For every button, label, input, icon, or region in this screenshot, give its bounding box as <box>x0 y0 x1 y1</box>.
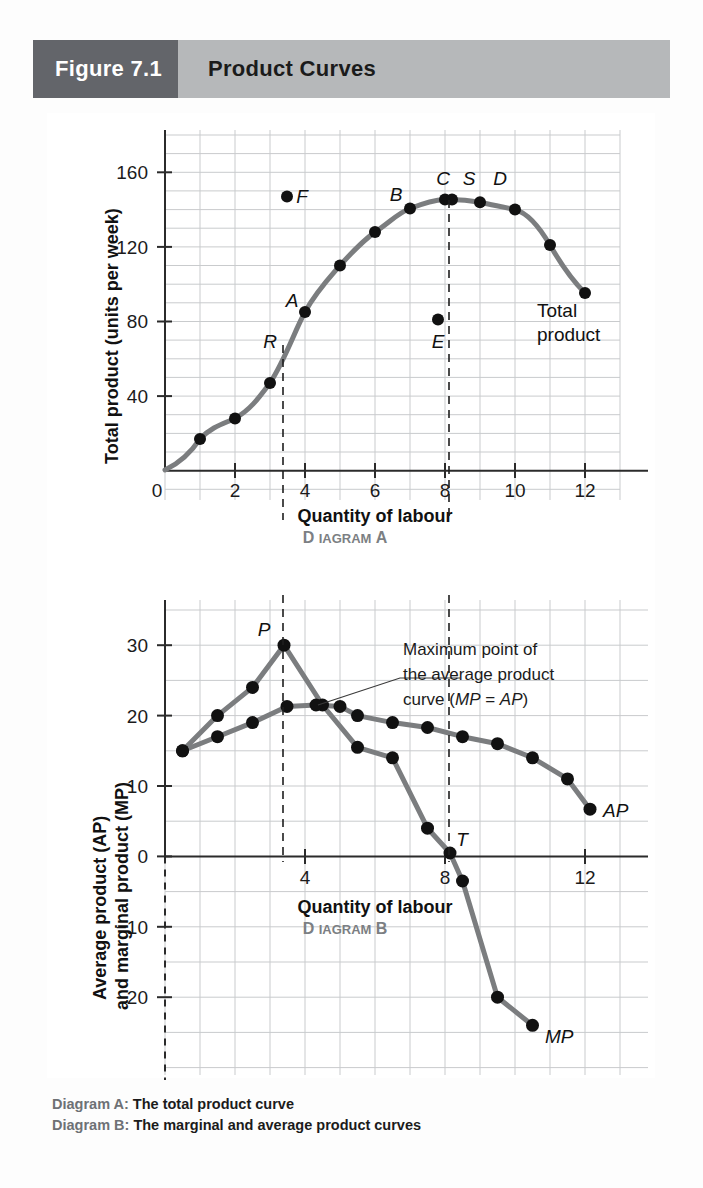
figure-caption: Diagram A: The total product curve Diagr… <box>52 1094 652 1136</box>
figure-container: Figure 7.1 Product Curves <box>0 0 703 1188</box>
annotation-line-3: curve (MP = AP) <box>403 690 528 709</box>
diagram-a-label-C: C <box>436 168 450 189</box>
diagram-a-y-axis-title: Total product (units per week) <box>102 208 122 464</box>
diagram-a-y-tick-80: 80 <box>127 311 148 332</box>
caption-line-a-key: Diagram A: <box>52 1096 129 1112</box>
diagram-b-label-P: P <box>258 619 271 640</box>
annotation-line-1: Maximum point of <box>403 640 537 659</box>
diagram-b-x-axis-title: Quantity of labour <box>298 897 453 917</box>
diagram-a-x-tick-2: 2 <box>230 480 241 501</box>
caption-line-b: Diagram B: The marginal and average prod… <box>52 1115 652 1136</box>
diagram-a-label-B: B <box>390 184 403 205</box>
mp-curve-label: MP <box>545 1026 574 1047</box>
diagram-b-x-tick-4: 4 <box>300 867 311 888</box>
diagram-a-label-F: F <box>296 186 309 207</box>
annotation-line-2: the average product <box>403 665 554 684</box>
diagram-b-y-tick-30: 30 <box>127 635 148 656</box>
diagram-a-x-tick-12: 12 <box>574 480 595 501</box>
diagram-a-y-tick-160: 160 <box>116 162 148 183</box>
total-product-curve-label-line1: Total <box>537 300 577 321</box>
diagram-a-label-R: R <box>263 331 277 352</box>
point-f-marker <box>281 190 293 202</box>
caption-line-a-text: The total product curve <box>129 1096 294 1112</box>
diagram-b: 30 20 10 0 −10 −20 4 8 12 <box>90 600 648 1080</box>
diagram-b-y-axis-title-line1: Average product (AP) <box>90 816 110 1000</box>
diagram-a-label-S: S <box>463 168 476 189</box>
caption-line-b-text: The marginal and average product curves <box>129 1117 421 1133</box>
diagram-b-tag: D IAGRAM B <box>303 920 388 937</box>
diagram-b-x-tick-8: 8 <box>440 867 451 888</box>
point-e-marker <box>432 314 444 326</box>
diagram-a-x-axis-title: Quantity of labour <box>298 506 453 526</box>
diagram-b-y-axis-title-line2: and marginal product (MP) <box>112 782 132 1010</box>
diagram-a-x-tick-4: 4 <box>300 480 311 501</box>
diagram-b-y-tick-0: 0 <box>137 846 148 867</box>
diagram-a-label-D: D <box>493 168 507 189</box>
caption-line-a: Diagram A: The total product curve <box>52 1094 652 1115</box>
product-curves-chart: 160 120 80 40 0 2 4 6 8 10 12 <box>0 0 703 1188</box>
diagram-a-tag: D IAGRAM A <box>303 529 388 546</box>
diagram-b-x-tick-12: 12 <box>574 867 595 888</box>
ap-curve-label: AP <box>602 800 629 821</box>
diagram-a-y-tick-40: 40 <box>127 386 148 407</box>
diagram-b-y-tick-20: 20 <box>127 706 148 727</box>
diagram-a: 160 120 80 40 0 2 4 6 8 10 12 <box>102 130 648 546</box>
diagram-b-label-T: T <box>456 829 469 850</box>
caption-line-b-key: Diagram B: <box>52 1117 129 1133</box>
diagram-a-x-origin: 0 <box>152 480 163 501</box>
diagram-a-label-A: A <box>285 290 299 311</box>
diagram-a-x-tick-6: 6 <box>370 480 381 501</box>
diagram-a-x-tick-10: 10 <box>504 480 525 501</box>
total-product-curve-label-line2: product <box>537 324 601 345</box>
diagram-a-label-E: E <box>432 331 445 352</box>
